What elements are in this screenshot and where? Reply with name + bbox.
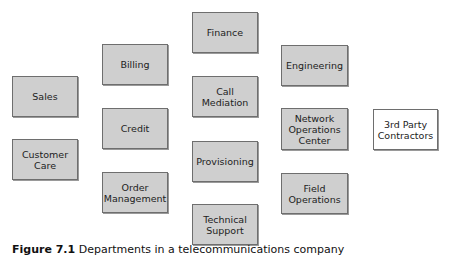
box-technical-support: Technical Support [192, 204, 258, 245]
box-credit: Credit [102, 108, 168, 149]
box-call-mediation: Call Mediation [192, 76, 258, 117]
box-field-operations: Field Operations [281, 173, 348, 214]
box-engineering: Engineering [281, 45, 348, 86]
box-network-operations-center: Network Operations Center [281, 108, 348, 150]
box-order-management: Order Management [102, 172, 168, 213]
box-customer-care: Customer Care [12, 139, 78, 180]
box-sales: Sales [12, 76, 78, 117]
box-provisioning: Provisioning [192, 141, 258, 182]
box-finance: Finance [192, 12, 258, 53]
box-3rd-party-contractors: 3rd Party Contractors [373, 109, 438, 150]
caption-text: Departments in a telecommunications comp… [75, 243, 344, 256]
caption-lead: Figure 7.1 [12, 243, 75, 256]
box-billing: Billing [102, 44, 168, 85]
figure-caption: Figure 7.1 Departments in a telecommunic… [12, 243, 344, 256]
